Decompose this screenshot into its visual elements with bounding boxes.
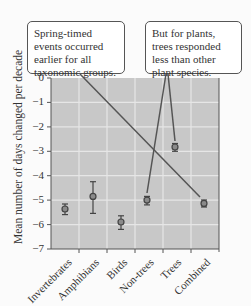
y-tick-3: −3	[26, 144, 44, 156]
callout-right: But for plants, trees responded less tha…	[145, 21, 242, 74]
y-tick-7: −7	[26, 242, 44, 254]
y-tick-4: −4	[26, 169, 44, 181]
y-axis-label: Mean number of days changed per decade	[12, 84, 24, 244]
point-combined	[201, 200, 207, 207]
y-tick-0: 0	[26, 71, 44, 83]
y-tick-2: −2	[26, 120, 44, 132]
callout-left: Spring-timed events occurred earlier for…	[27, 21, 125, 74]
y-tick-1: −1	[26, 95, 44, 107]
y-tick-5: −5	[26, 193, 44, 205]
y-tick-6: −6	[26, 218, 44, 230]
